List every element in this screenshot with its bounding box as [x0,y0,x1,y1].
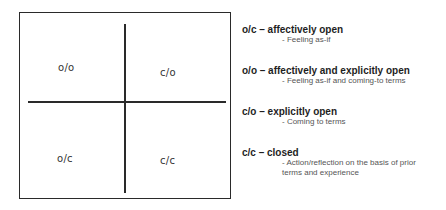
legend-item-title: c/c – closed [242,147,446,158]
legend-item-description: - Coming to terms [242,117,446,127]
legend-item: o/o – affectively and explicitly open - … [242,65,446,86]
quadrant-label-bottom-left: o/c [57,153,73,165]
horizontal-axis-line [28,101,226,103]
legend-item: c/o – explicitly open - Coming to terms [242,106,446,127]
legend-item-description: - Action/reflection on the basis of prio… [242,158,432,178]
legend-item-description: - Feeling as-if [242,35,446,45]
legend-item-title: c/o – explicitly open [242,106,446,117]
vertical-axis-line [124,24,126,193]
legend-item: o/c – affectively open - Feeling as-if [242,24,446,45]
quadrant-label-top-right: c/o [160,67,176,79]
legend-item-description: - Feeling as-if and coming-to terms [242,76,446,86]
quadrant-label-bottom-right: c/c [160,155,175,167]
legend-item-title: o/c – affectively open [242,24,446,35]
legend-item: c/c – closed - Action/reflection on the … [242,147,446,178]
quadrant-label-top-left: o/o [58,62,75,74]
legend-item-title: o/o – affectively and explicitly open [242,65,446,76]
